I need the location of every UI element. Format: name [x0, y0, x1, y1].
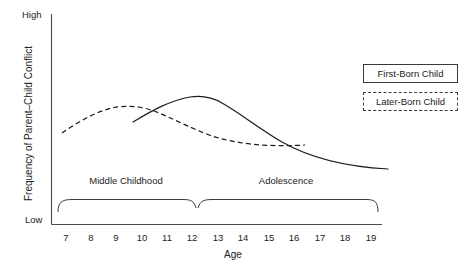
bracket-adolescence — [198, 200, 378, 213]
x-tick-13: 13 — [210, 232, 226, 243]
y-axis-high-label: High — [22, 10, 42, 20]
x-tick-9: 9 — [108, 232, 124, 243]
x-tick-17: 17 — [312, 232, 328, 243]
x-axis-title: Age — [0, 250, 466, 260]
region-label-middle-childhood: Middle Childhood — [89, 175, 162, 186]
legend-item-first-born: First-Born Child — [363, 64, 458, 83]
x-tick-16: 16 — [286, 232, 302, 243]
x-tick-10: 10 — [134, 232, 150, 243]
x-tick-19: 19 — [363, 232, 379, 243]
legend-label-first-born: First-Born Child — [378, 68, 444, 79]
y-axis-title: Frequency of Parent–Child Conflict — [23, 34, 34, 214]
x-tick-11: 11 — [159, 232, 175, 243]
legend-label-later-born: Later-Born Child — [376, 96, 445, 107]
x-tick-7: 7 — [58, 232, 74, 243]
x-tick-18: 18 — [337, 232, 353, 243]
x-tick-14: 14 — [235, 232, 251, 243]
x-tick-12: 12 — [184, 232, 200, 243]
bracket-middle-childhood — [58, 200, 196, 213]
chart-canvas — [0, 0, 466, 269]
x-tick-15: 15 — [261, 232, 277, 243]
y-axis-low-label: Low — [25, 215, 42, 225]
region-label-adolescence: Adolescence — [259, 175, 313, 186]
chart-figure: Frequency of Parent–Child Conflict High … — [0, 0, 466, 269]
x-tick-8: 8 — [83, 232, 99, 243]
series-line-later-born — [62, 106, 305, 145]
series-line-first-born — [133, 96, 388, 169]
legend-item-later-born: Later-Born Child — [363, 92, 458, 111]
